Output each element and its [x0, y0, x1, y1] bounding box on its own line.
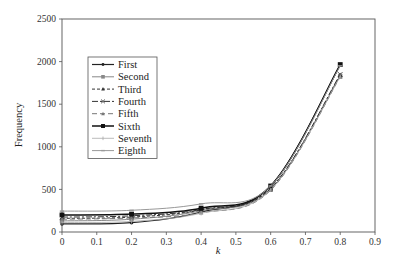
legend-label: Second	[118, 71, 150, 82]
legend-label: Fourth	[118, 96, 147, 107]
y-tick-label: 2500	[37, 14, 56, 24]
y-tick-label: 1500	[37, 99, 56, 109]
y-axis-title: Frequency	[13, 102, 24, 147]
x-axis-ticks: 00.10.20.30.40.50.60.70.80.9	[60, 232, 382, 247]
y-tick-label: 0	[51, 227, 56, 237]
line-chart: 05001000150020002500 00.10.20.30.40.50.6…	[0, 0, 400, 267]
x-tick-label: 0.6	[265, 237, 277, 247]
x-tick-label: 0	[60, 237, 65, 247]
legend-label: Third	[118, 84, 142, 95]
x-tick-label: 0.8	[334, 237, 346, 247]
y-tick-label: 500	[42, 185, 57, 195]
legend-label: Eighth	[118, 145, 147, 156]
x-tick-label: 0.5	[230, 237, 242, 247]
x-tick-label: 0.7	[300, 237, 312, 247]
legend-label: Fifth	[118, 108, 139, 119]
y-axis-ticks: 05001000150020002500	[37, 14, 62, 237]
x-tick-label: 0.3	[160, 237, 172, 247]
legend-label: Seventh	[118, 133, 153, 144]
x-tick-label: 0.9	[369, 237, 381, 247]
y-tick-label: 2000	[37, 57, 56, 67]
legend: FirstSecondThirdFourthFifthSixthSeventhE…	[88, 57, 157, 158]
legend-label: Sixth	[118, 121, 141, 132]
x-tick-label: 0.4	[195, 237, 207, 247]
x-tick-label: 0.1	[91, 237, 103, 247]
y-tick-label: 1000	[37, 142, 56, 152]
x-axis-title: k	[216, 245, 221, 256]
x-tick-label: 0.2	[126, 237, 138, 247]
legend-label: First	[118, 59, 137, 70]
